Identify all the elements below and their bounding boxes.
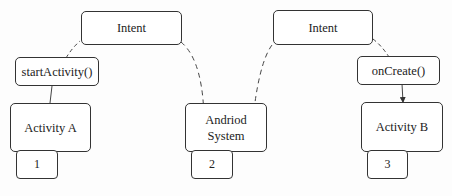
android-system-node: Andriod System xyxy=(185,103,267,152)
android-system-label-line1: Andriod xyxy=(205,112,247,128)
callout-2-label: 2 xyxy=(209,157,215,172)
callout-3-label: 3 xyxy=(385,157,391,172)
callout-1-label: 1 xyxy=(34,157,40,172)
android-system-label-line2: System xyxy=(208,128,245,144)
activity-a-node: Activity A xyxy=(10,103,91,152)
on-create-node: onCreate() xyxy=(357,56,440,85)
on-create-label: onCreate() xyxy=(372,63,425,79)
activity-a-label: Activity A xyxy=(24,120,76,136)
activity-b-label: Activity B xyxy=(376,119,428,135)
intent-left-node: Intent xyxy=(81,11,182,45)
callout-3: 3 xyxy=(367,150,408,179)
intent-right-node: Intent xyxy=(273,10,373,45)
start-activity-label: startActivity() xyxy=(22,64,93,80)
start-activity-node: startActivity() xyxy=(15,57,99,86)
callout-2: 2 xyxy=(191,150,233,179)
callout-1: 1 xyxy=(16,150,58,179)
activity-b-node: Activity B xyxy=(361,102,443,152)
intent-flow-diagram: Intent Intent startActivity() onCreate()… xyxy=(0,0,452,196)
intent-right-label: Intent xyxy=(308,20,337,36)
intent-left-label: Intent xyxy=(117,20,146,36)
